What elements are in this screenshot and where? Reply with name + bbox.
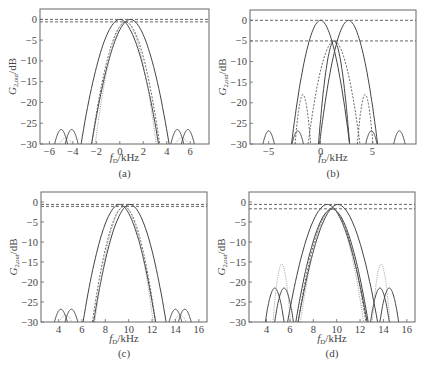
sidelobe-curve [357, 95, 373, 145]
x-tick-label: −5 [263, 146, 274, 157]
axes-frame [250, 10, 416, 144]
main-lobe-curve [298, 204, 378, 322]
x-tick-label: 6 [188, 146, 193, 157]
sidelobe-curve [178, 309, 191, 322]
y-tick-label: −10 [21, 55, 37, 66]
sidelobe-curve [366, 131, 377, 144]
main-lobe-curve [292, 20, 350, 144]
y-tick-label: −30 [22, 317, 38, 328]
main-lobe-curve [92, 19, 170, 144]
y-tick-label: −30 [230, 317, 246, 328]
panel-caption: (d) [326, 347, 339, 360]
y-tick-label: −5 [235, 217, 246, 228]
axes-frame [41, 192, 207, 322]
sidelobe-curve [275, 288, 294, 322]
x-tick-label: 12 [147, 324, 158, 335]
sidelobe-curve [292, 131, 303, 144]
panel-a: −6−4−202460−5−10−15−20−25−30fD/kHzG2,out… [6, 9, 209, 180]
x-tick-label: 12 [355, 324, 366, 335]
main-lobe-curve [308, 41, 360, 144]
sidelobe-curve [371, 288, 390, 322]
panel-caption: (a) [118, 167, 131, 180]
sidelobe-curve [265, 288, 284, 322]
y-tick-label: −5 [26, 35, 37, 46]
y-tick-label: −15 [231, 77, 247, 88]
x-tick-label: −2 [91, 146, 102, 157]
y-tick-label: −5 [236, 35, 247, 46]
main-lobe-curve [94, 204, 167, 322]
x-tick-label: 14 [378, 324, 389, 335]
x-tick-label: 16 [194, 324, 205, 335]
main-lobe-curve [81, 19, 158, 144]
y-tick-label: −20 [231, 97, 247, 108]
y-tick-label: −15 [22, 257, 38, 268]
x-axis-label: fD/kHz [110, 151, 140, 165]
sidelobe-curve [380, 288, 399, 322]
x-tick-label: 8 [311, 324, 316, 335]
y-tick-label: −25 [231, 118, 247, 129]
panel-c: 468101214160−5−10−15−20−25−30fD/kHzG2,ou… [7, 192, 207, 360]
main-lobe-curve [92, 22, 160, 144]
axes-frame [249, 192, 415, 322]
plot-area [41, 204, 207, 322]
main-lobe-curve [298, 209, 366, 322]
y-tick-label: −30 [231, 139, 247, 150]
y-tick-label: −15 [230, 257, 246, 268]
x-tick-label: 5 [370, 146, 375, 157]
x-tick-label: −6 [44, 146, 55, 157]
plot-area [249, 204, 415, 322]
axes-frame [40, 9, 209, 144]
panel-caption: (b) [327, 167, 340, 180]
y-tick-label: −10 [231, 56, 247, 67]
y-tick-label: 0 [33, 197, 38, 208]
y-tick-label: −20 [230, 277, 246, 288]
main-lobe-curve [288, 204, 368, 322]
sidelobe-curve [394, 131, 405, 144]
x-tick-label: 6 [79, 324, 84, 335]
x-tick-label: 4 [164, 146, 170, 157]
x-tick-label: 2 [141, 146, 146, 157]
x-tick-label: 8 [103, 324, 108, 335]
main-lobe-curve [296, 209, 368, 322]
y-tick-label: 0 [242, 15, 247, 26]
x-tick-label: 14 [170, 324, 181, 335]
y-tick-label: −5 [27, 217, 38, 228]
x-tick-label: 16 [402, 324, 413, 335]
x-tick-label: 4 [264, 324, 270, 335]
main-lobe-curve [83, 204, 156, 322]
y-tick-label: −25 [22, 297, 38, 308]
y-tick-label: −25 [230, 297, 246, 308]
y-axis-label: G2,out/dB [216, 58, 229, 95]
main-lobe-curve [320, 20, 378, 144]
y-axis-label: G2,out/dB [215, 238, 228, 275]
plot-area [40, 19, 209, 144]
y-tick-label: −20 [21, 97, 37, 108]
y-tick-label: −10 [230, 237, 246, 248]
y-tick-label: −10 [22, 237, 38, 248]
plot-area [250, 20, 416, 144]
y-axis-label: G2,out/dB [7, 238, 20, 275]
panel-d: 468101214160−5−10−15−20−25−30fD/kHzG2,ou… [215, 192, 415, 360]
main-lobe-curve [92, 206, 155, 322]
x-tick-label: −4 [67, 146, 79, 157]
main-lobe-curve [319, 41, 350, 144]
y-tick-label: −15 [21, 76, 37, 87]
x-axis-label: fD/kHz [109, 332, 139, 346]
y-tick-label: 0 [241, 197, 246, 208]
x-axis-label: fD/kHz [317, 332, 347, 346]
y-tick-label: −25 [21, 118, 37, 129]
panel-b: −5050−5−10−15−20−25−30fD/kHzG2,out/dB(b) [216, 10, 416, 180]
y-tick-label: −20 [22, 277, 38, 288]
figure: −6−4−202460−5−10−15−20−25−30fD/kHzG2,out… [0, 0, 422, 366]
panel-caption: (c) [118, 347, 131, 360]
y-tick-label: −30 [21, 139, 37, 150]
x-tick-label: 6 [287, 324, 292, 335]
x-tick-label: 4 [56, 324, 62, 335]
y-tick-label: 0 [32, 14, 37, 25]
y-axis-label: G2,out/dB [6, 58, 19, 95]
